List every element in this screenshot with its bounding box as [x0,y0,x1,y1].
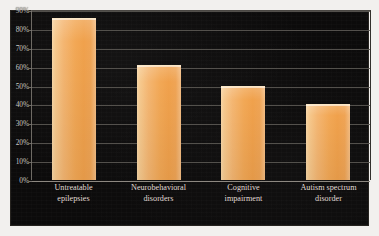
category-label-line: Autism spectrum [287,182,370,193]
category-label-line: Neurobehavioral [117,182,200,193]
plot-area [31,10,371,180]
category-label-line: impairment [202,193,285,204]
y-axis-tick-label: 70% [16,43,29,52]
y-axis-tick-label: 40% [16,100,29,109]
y-axis-tick-label: 20% [16,138,29,147]
y-axis-tick-label: 30% [16,119,29,128]
bars-layer [32,11,370,180]
x-axis-category-label: Autism spectrumdisorder [287,182,370,204]
y-axis-tick-label: 50% [16,81,29,90]
x-axis-category-label: Neurobehavioraldisorders [117,182,200,204]
bar-3 [221,86,265,180]
y-axis-tick-label: 10% [16,157,29,166]
y-axis: 0%10%20%30%40%50%60%70%80%90% [0,10,31,180]
bar-1 [52,18,96,180]
bar-2 [137,65,181,180]
y-axis-tick-label: 60% [16,62,29,71]
bar-4 [306,104,350,180]
category-label-line: epilepsies [32,193,115,204]
y-axis-tick-label: 80% [16,24,29,33]
chart-figure: 0%10%20%30%40%50%60%70%80%90% Untreatabl… [0,0,379,236]
y-axis-tick-label: 0% [19,176,29,185]
x-axis-category-label: Untreatableepilepsies [32,182,115,204]
category-label-line: disorders [117,193,200,204]
category-label-line: disorder [287,193,370,204]
x-axis-labels: UntreatableepilepsiesNeurobehavioraldiso… [31,182,371,216]
category-label-line: Untreatable [32,182,115,193]
category-label-line: Cognitive [202,182,285,193]
x-axis-category-label: Cognitiveimpairment [202,182,285,204]
y-axis-tick-label: 90% [16,6,29,15]
